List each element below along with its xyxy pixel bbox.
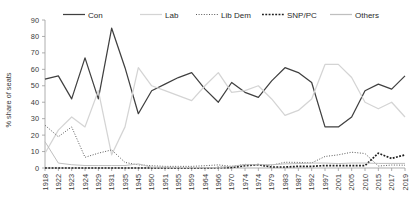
x-tick-label: 2019 [401,174,410,190]
y-axis-title: % share of seats [4,72,13,127]
y-tick-label: 80 [31,32,39,41]
y-tick-label: 0 [35,164,39,173]
legend-label-others: Others [355,11,379,20]
x-tick-label: 1987 [294,174,303,190]
x-tick-label: 1992 [307,174,316,190]
x-axis: 1918192219231924192919311935194519501951… [41,168,410,190]
series-line-others [45,142,405,168]
x-tick-label: 1931 [107,174,116,190]
x-tick-label: 1929 [94,174,103,190]
x-tick-label: 1935 [121,174,130,190]
legend-label-con: Con [88,11,103,20]
x-tick-label: 1997 [321,174,330,190]
x-tick-label: 2017 [387,174,396,190]
y-tick-label: 70 [31,48,39,57]
y-tick-label: 50 [31,81,39,90]
x-tick-label: 1922 [54,174,63,190]
x-tick-label: 1979 [267,174,276,190]
x-tick-label: 1974 [241,174,250,190]
chart-container: ConLabLib DemSNP/PCOthers 01020304050607… [0,0,411,210]
x-tick-label: 1974 [254,174,263,190]
y-axis: 0102030405060708090 [31,16,45,173]
x-tick-label: 2010 [361,174,370,190]
y-tick-label: 60 [31,65,39,74]
x-tick-label: 1955 [174,174,183,190]
x-tick-label: 1945 [134,174,143,190]
y-tick-label: 10 [31,147,39,156]
y-tick-label: 40 [31,98,39,107]
x-tick-label: 1970 [227,174,236,190]
x-tick-label: 1924 [81,174,90,190]
x-tick-label: 1966 [214,174,223,190]
x-tick-label: 1951 [161,174,170,190]
x-tick-label: 1918 [41,174,50,190]
x-tick-label: 1964 [201,174,210,190]
series-lines [45,28,405,168]
x-tick-label: 1950 [147,174,156,190]
x-tick-label: 2015 [374,174,383,190]
x-tick-label: 2005 [347,174,356,190]
legend-label-lib-dem: Lib Dem [221,11,251,20]
series-line-lib-dem [45,125,405,166]
y-tick-label: 30 [31,114,39,123]
x-tick-label: 2001 [334,174,343,190]
series-line-lab [45,64,405,154]
legend-label-snp-pc: SNP/PC [287,11,317,20]
seat-share-line-chart: ConLabLib DemSNP/PCOthers 01020304050607… [0,0,411,210]
x-tick-label: 1923 [67,174,76,190]
x-tick-label: 1983 [281,174,290,190]
chart-legend: ConLabLib DemSNP/PCOthers [63,11,379,20]
x-tick-label: 1959 [187,174,196,190]
y-tick-label: 20 [31,131,39,140]
legend-label-lab: Lab [165,11,179,20]
y-tick-label: 90 [31,16,39,25]
